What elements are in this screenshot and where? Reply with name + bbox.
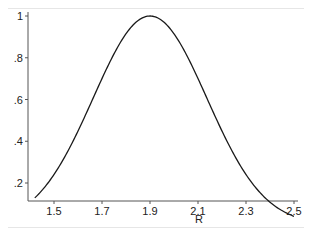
y-tick-label: .8 — [14, 52, 23, 64]
x-tick-label: 1.9 — [142, 205, 157, 217]
y-tick-label: 1 — [17, 10, 23, 22]
line-chart: 1.8.6.4.2 1.51.71.92.12.32.5 R — [0, 0, 316, 234]
x-axis-title: R — [195, 213, 203, 225]
x-tick-label: 2.3 — [238, 205, 253, 217]
x-tick-label: 1.5 — [46, 205, 61, 217]
y-tick-label: .6 — [14, 94, 23, 106]
y-axis: 1.8.6.4.2 — [14, 10, 28, 201]
y-tick-label: .2 — [14, 177, 23, 189]
x-tick-label: 2.5 — [286, 205, 301, 217]
y-tick-label: .4 — [14, 135, 23, 147]
x-axis: 1.51.71.92.12.32.5 — [28, 201, 302, 217]
x-tick-label: 1.7 — [94, 205, 109, 217]
density-curve — [35, 16, 294, 216]
